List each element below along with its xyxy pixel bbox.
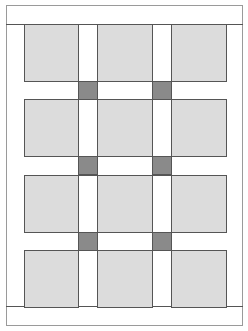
sashing-row bbox=[24, 232, 226, 251]
cornerstone bbox=[152, 81, 172, 100]
quilt-bottom-border bbox=[6, 306, 243, 326]
quilt-block bbox=[171, 250, 227, 308]
quilt-block bbox=[171, 24, 227, 82]
cornerstone bbox=[78, 156, 98, 175]
quilt-block bbox=[24, 175, 79, 233]
cornerstone bbox=[152, 156, 172, 175]
quilt-block bbox=[24, 24, 79, 82]
cornerstone bbox=[78, 232, 98, 251]
quilt-block bbox=[97, 99, 153, 157]
quilt-block bbox=[171, 99, 227, 157]
quilt-block bbox=[24, 250, 79, 308]
quilt-block bbox=[24, 99, 79, 157]
cornerstone bbox=[152, 232, 172, 251]
quilt-block bbox=[97, 24, 153, 82]
quilt-block bbox=[97, 175, 153, 233]
quilt-block bbox=[97, 250, 153, 308]
quilt-block bbox=[171, 175, 227, 233]
sashing-row bbox=[24, 81, 226, 100]
quilt-top-border bbox=[6, 5, 243, 25]
cornerstone bbox=[78, 81, 98, 100]
sashing-row bbox=[24, 156, 226, 176]
